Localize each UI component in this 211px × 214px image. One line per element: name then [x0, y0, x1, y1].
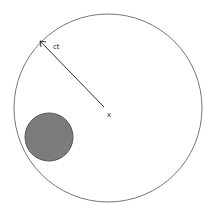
radius-line — [40, 41, 104, 107]
center-label: x — [107, 111, 111, 119]
outer-circle — [14, 14, 202, 202]
diagram-canvas: ct x — [0, 0, 211, 214]
inner-disk — [25, 113, 73, 161]
radius-label: ct — [53, 43, 60, 51]
